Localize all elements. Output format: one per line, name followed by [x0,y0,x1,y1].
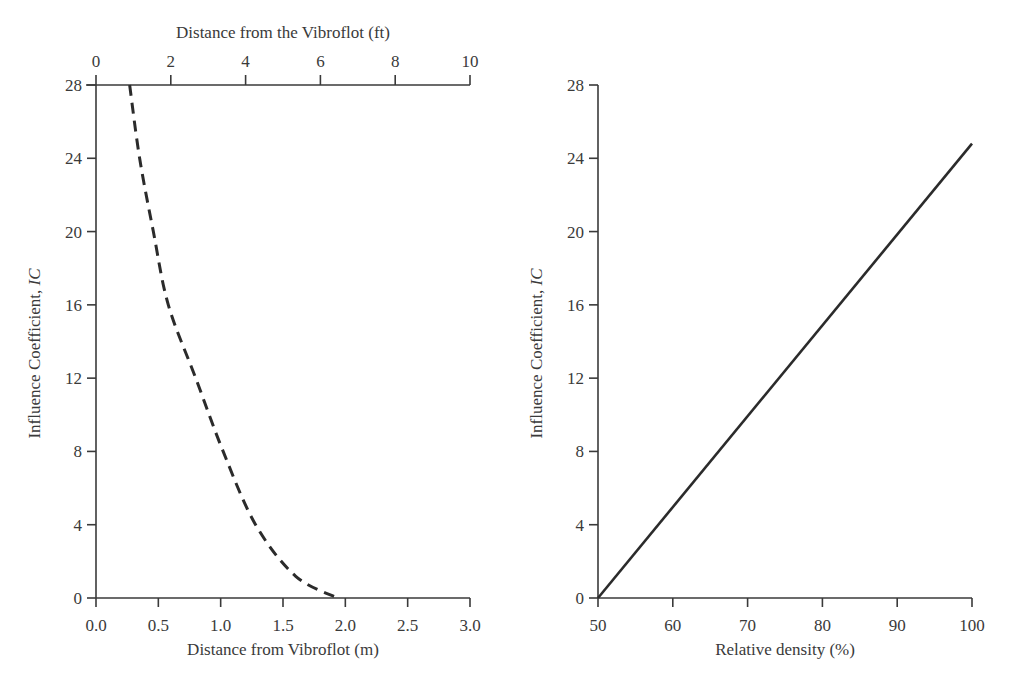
right-chart: 04812162024285060708090100Relative densi… [527,76,985,659]
x-tick-label: 60 [664,616,681,635]
top-tick-label: 4 [241,52,250,71]
x-tick-label: 2.0 [335,616,356,635]
y-tick-label: 4 [74,516,83,535]
data-series-line [130,85,338,598]
x-tick-label: 100 [959,616,985,635]
y-tick-label: 20 [567,223,584,242]
top-axis-title: Distance from the Vibroflot (ft) [176,23,390,42]
y-tick-label: 24 [65,149,83,168]
y-tick-label: 28 [567,76,584,95]
x-tick-label: 90 [889,616,906,635]
data-series-line [598,144,972,598]
y-tick-label: 20 [65,223,82,242]
y-axis-title: Influence Coefficient, IC [25,268,44,439]
top-tick-label: 2 [167,52,176,71]
left-chart: 04812162024280.00.51.01.52.02.53.0024681… [25,23,481,659]
x-tick-label: 70 [739,616,756,635]
y-tick-label: 12 [567,369,584,388]
y-tick-label: 24 [567,149,585,168]
x-tick-label: 3.0 [459,616,480,635]
x-tick-label: 0.5 [148,616,169,635]
charts-canvas: 04812162024280.00.51.01.52.02.53.0024681… [0,0,1011,697]
x-tick-label: 80 [814,616,831,635]
y-tick-label: 4 [576,516,585,535]
y-tick-label: 28 [65,76,82,95]
x-tick-label: 0.0 [85,616,106,635]
x-tick-label: 1.5 [272,616,293,635]
x-axis-title: Distance from Vibroflot (m) [187,640,379,659]
x-tick-label: 50 [590,616,607,635]
y-tick-label: 8 [576,442,585,461]
y-tick-label: 16 [65,296,82,315]
top-tick-label: 10 [462,52,479,71]
top-tick-label: 0 [92,52,101,71]
top-tick-label: 6 [316,52,325,71]
x-tick-label: 2.5 [397,616,418,635]
top-tick-label: 8 [391,52,400,71]
x-axis-title: Relative density (%) [715,640,855,659]
x-tick-label: 1.0 [210,616,231,635]
y-tick-label: 8 [74,442,83,461]
y-tick-label: 12 [65,369,82,388]
y-tick-label: 0 [74,589,83,608]
y-axis-title: Influence Coefficient, IC [527,268,546,439]
y-tick-label: 16 [567,296,584,315]
y-tick-label: 0 [576,589,585,608]
